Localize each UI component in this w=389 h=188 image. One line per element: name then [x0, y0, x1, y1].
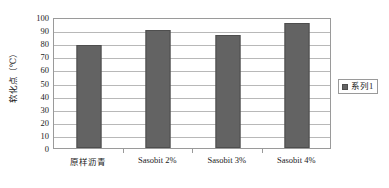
- bar-slot: [124, 19, 194, 148]
- legend-square-icon: [342, 84, 348, 90]
- x-axis-category-label: Sasobit 3%: [192, 155, 262, 165]
- bar-slot: [193, 19, 263, 148]
- y-axis-tick-label: 100: [22, 14, 49, 22]
- y-axis-tick-label: 0: [22, 145, 49, 153]
- bar[interactable]: [285, 23, 310, 148]
- x-axis-category-label: Sasobit 4%: [262, 155, 332, 165]
- x-axis-tick-marks: [53, 149, 331, 154]
- chart-legend[interactable]: 系列1: [338, 79, 378, 94]
- x-axis-category-labels: 原样沥青Sasobit 2%Sasobit 3%Sasobit 4%: [53, 155, 331, 173]
- y-axis-tick-label: 40: [22, 93, 49, 101]
- bar-slot: [263, 19, 333, 148]
- bar[interactable]: [146, 30, 171, 148]
- x-axis-category-label: Sasobit 2%: [123, 155, 193, 165]
- x-axis-tick-mark: [262, 149, 263, 153]
- bar[interactable]: [76, 45, 101, 148]
- y-axis-tick-label: 50: [22, 80, 49, 88]
- y-axis-tick-label: 80: [22, 40, 49, 48]
- bar[interactable]: [215, 35, 240, 148]
- y-axis-tick-labels: 1009080706050403020100: [22, 14, 49, 149]
- x-axis-category-label: 原样沥青: [53, 155, 123, 167]
- y-axis-tick-label: 20: [22, 119, 49, 127]
- y-axis-tick-label: 10: [22, 132, 49, 140]
- y-axis-tick-label: 70: [22, 53, 49, 61]
- y-axis-tick-label: 30: [22, 106, 49, 114]
- x-axis-tick-mark: [123, 149, 124, 153]
- plot-area: [53, 18, 331, 149]
- y-axis-tick-label: 90: [22, 27, 49, 35]
- chart-screenshot: 软化点（℃） 1009080706050403020100 原样沥青Sasobi…: [0, 0, 389, 188]
- y-axis-title-text: 软化点（℃）: [6, 49, 18, 104]
- y-axis-tick-label: 60: [22, 66, 49, 74]
- bar-slot: [54, 19, 124, 148]
- y-axis-title: 软化点（℃）: [4, 38, 20, 114]
- legend-label: 系列1: [351, 82, 373, 91]
- bar-series: [54, 19, 330, 148]
- x-axis-tick-mark: [192, 149, 193, 153]
